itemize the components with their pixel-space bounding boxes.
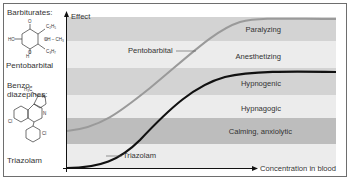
y-axis-arrow-icon (64, 11, 69, 17)
x-axis-label: Concentration in blood (260, 164, 336, 173)
chart-curves (0, 0, 351, 182)
y-axis-label: Effect (71, 12, 90, 21)
pentobarbital-curve (67, 19, 336, 131)
triazolam-curve-label: Triazolam (123, 151, 156, 160)
x-axis-arrow-icon (252, 166, 258, 171)
pentobarbital-curve-label: Pentobarbital (128, 46, 173, 55)
